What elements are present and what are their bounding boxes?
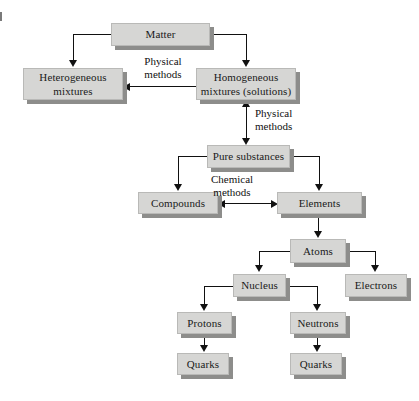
node-quarks-right-label: Quarks	[297, 358, 335, 371]
edge-pure-to-compounds-h	[178, 156, 208, 157]
arrowhead-matter-to-homogeneous	[242, 60, 250, 67]
node-quarks-left: Quarks	[177, 353, 229, 375]
edge-matter-to-heterogeneous-h	[73, 34, 112, 35]
node-neutrons: Neutrons	[290, 312, 346, 334]
node-quarks-right: Quarks	[290, 353, 342, 375]
node-elements: Elements	[277, 192, 362, 214]
edge-matter-to-heterogeneous-v	[73, 34, 74, 61]
edge-atoms-to-electrons-h	[345, 251, 376, 252]
edge-label-physical-methods-1: Physical methods	[130, 55, 196, 81]
node-matter: Matter	[111, 23, 210, 46]
edge-nucleus-to-neutrons-v	[317, 286, 318, 304]
node-heterogeneous-mixtures: Heterogeneous mixtures	[23, 68, 123, 100]
node-matter-label: Matter	[143, 28, 179, 41]
edge-atoms-to-electrons-v	[375, 251, 376, 266]
arrowhead-pure-to-compounds	[174, 184, 182, 191]
node-nucleus-label: Nucleus	[238, 279, 281, 292]
edge-nucleus-to-protons-v	[204, 286, 205, 304]
edge-nucleus-to-protons-h	[204, 286, 234, 287]
arrowhead-protons-to-quarks	[200, 345, 208, 352]
arrowhead-nucleus-to-neutrons	[313, 304, 321, 311]
arrowhead-neutrons-to-quarks	[313, 345, 321, 352]
edge-elements-to-atoms	[318, 214, 319, 232]
node-homogeneous-mixtures-label: Homogeneous mixtures (solutions)	[198, 70, 294, 98]
node-pure-substances: Pure substances	[207, 145, 290, 168]
node-electrons: Electrons	[345, 274, 407, 297]
flowchart-canvas: Matter Heterogeneous mixtures Homogeneou…	[0, 0, 419, 401]
edge-atoms-to-nucleus-h	[259, 251, 291, 252]
node-heterogeneous-mixtures-label: Heterogeneous mixtures	[36, 70, 109, 98]
edge-label-chemical-methods: Chemical methods	[199, 173, 265, 199]
page-edge-mark	[0, 12, 2, 21]
arrowhead-matter-to-heterogeneous	[69, 60, 77, 67]
arrowhead-nucleus-to-protons	[200, 304, 208, 311]
node-elements-label: Elements	[296, 197, 344, 210]
edge-matter-to-homogeneous-v	[246, 34, 247, 61]
node-protons-label: Protons	[184, 317, 224, 330]
edge-nucleus-to-neutrons-h	[285, 286, 318, 287]
edge-homogeneous-to-pure	[246, 104, 247, 141]
arrowhead-pure-to-homogeneous	[242, 100, 250, 107]
node-atoms-label: Atoms	[300, 245, 336, 258]
edge-pure-to-elements-h	[289, 156, 320, 157]
node-pure-substances-label: Pure substances	[210, 150, 287, 163]
node-electrons-label: Electrons	[352, 279, 400, 292]
node-atoms: Atoms	[290, 239, 346, 263]
node-neutrons-label: Neutrons	[294, 317, 341, 330]
arrowhead-homogeneous-to-heterogeneous	[123, 83, 130, 91]
node-nucleus: Nucleus	[233, 274, 286, 297]
arrowhead-pure-to-elements	[315, 184, 323, 191]
arrowhead-elements-to-compounds	[218, 200, 225, 208]
arrowhead-atoms-to-nucleus	[255, 265, 263, 272]
edge-elements-to-compounds	[223, 203, 274, 204]
node-quarks-left-label: Quarks	[184, 358, 222, 371]
arrowhead-atoms-to-electrons	[371, 265, 379, 272]
node-protons: Protons	[177, 312, 232, 334]
node-homogeneous-mixtures: Homogeneous mixtures (solutions)	[196, 68, 296, 100]
edge-atoms-to-nucleus-v	[259, 251, 260, 266]
edge-pure-to-compounds-v	[178, 156, 179, 184]
arrowhead-elements-to-atoms	[314, 231, 322, 238]
edge-homogeneous-to-heterogeneous	[128, 86, 196, 87]
edge-matter-to-homogeneous-h	[209, 34, 247, 35]
edge-pure-to-elements-v	[319, 156, 320, 184]
arrowhead-homogeneous-to-pure	[242, 138, 250, 145]
edge-label-physical-methods-2: Physical methods	[255, 107, 321, 133]
